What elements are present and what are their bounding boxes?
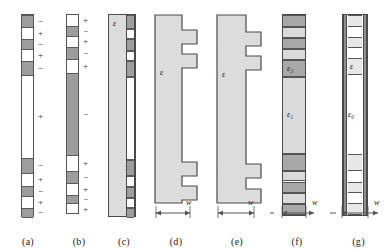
segment-dark xyxy=(22,186,33,197)
polarity-sign: − xyxy=(38,186,43,195)
caption-f: (f) xyxy=(268,236,326,247)
polarity-sign: + xyxy=(38,175,43,184)
poled-bar-b xyxy=(66,14,79,214)
segment-dark xyxy=(67,73,78,156)
panel-e: ε w (e) xyxy=(206,0,268,250)
comb-shape-e xyxy=(216,14,262,204)
grating-segment xyxy=(127,77,134,159)
right-rail-g xyxy=(363,15,367,215)
epsilon1-label-f: ε₁ xyxy=(287,110,293,119)
comb-svg-d xyxy=(154,14,198,204)
polarity-sign: + xyxy=(83,158,88,167)
figure-canvas: −+−+−+−+−+− (a) +−+−+−+−+−+ (b) ε (c) ε xyxy=(0,0,391,250)
caption-g: (g) xyxy=(326,236,391,247)
epsilon-label-c: ε xyxy=(113,19,116,28)
epsilon-label-g: ε xyxy=(350,62,353,71)
grating-segment xyxy=(127,187,134,198)
polarity-sign: + xyxy=(38,112,43,121)
stack-band xyxy=(283,49,305,60)
dimension-w-e xyxy=(216,206,266,218)
segment-dark xyxy=(22,39,33,50)
grating-segment xyxy=(127,198,134,208)
stack-band xyxy=(283,171,305,182)
polarity-sign: − xyxy=(83,26,88,35)
w-label-g: w xyxy=(374,198,379,207)
grating-segment xyxy=(127,39,134,51)
stack-band xyxy=(283,15,305,27)
stack-band xyxy=(348,182,362,194)
polarity-sign: + xyxy=(83,184,88,193)
grating-segment xyxy=(127,51,134,61)
epsilon0-label-g: ε₀ xyxy=(348,110,354,119)
stack-band xyxy=(283,193,305,204)
polarity-sign: + xyxy=(38,50,43,59)
w-label-f: w xyxy=(312,198,317,207)
caption-b: (b) xyxy=(56,236,102,247)
dimension-w-f xyxy=(270,206,324,218)
epsilon-label-d: ε xyxy=(160,68,163,77)
polarity-sign: − xyxy=(83,109,88,118)
caption-e: (e) xyxy=(206,236,268,247)
panel-b: +−+−+−+−+−+ (b) xyxy=(56,0,102,250)
polarity-sign: − xyxy=(38,161,43,170)
caption-a: (a) xyxy=(0,236,56,247)
segment-dark xyxy=(67,26,78,37)
panel-f: ε₂ ε₁ w (f) xyxy=(268,0,326,250)
polarity-sign: − xyxy=(83,48,88,57)
segment-dark xyxy=(22,208,33,218)
w-label-e: w xyxy=(248,198,253,207)
polarity-sign: − xyxy=(38,63,43,72)
dimension-arrow-f xyxy=(270,206,324,218)
layered-stack-g xyxy=(342,14,368,216)
polarity-sign: − xyxy=(83,194,88,203)
polarity-sign: + xyxy=(38,197,43,206)
segment-dark xyxy=(67,171,78,184)
w-label-d: w xyxy=(186,198,191,207)
stack-band xyxy=(348,154,362,171)
poled-bar-a xyxy=(21,14,34,217)
epsilon-label-e: ε xyxy=(222,70,225,79)
segment-dark xyxy=(67,195,78,204)
polarity-sign: − xyxy=(38,16,43,25)
panel-g: ε ε₀ w (g) xyxy=(326,0,391,250)
left-rail-g xyxy=(343,15,347,215)
panel-c: ε (c) xyxy=(102,0,146,250)
polarity-sign: + xyxy=(38,28,43,37)
dimension-arrow-e xyxy=(216,206,266,218)
stack-band xyxy=(283,182,305,193)
polarity-sign: − xyxy=(38,39,43,48)
grating-segment xyxy=(127,176,134,187)
dimension-arrow-g xyxy=(330,206,388,218)
comb-shape-d xyxy=(154,14,198,204)
stack-band xyxy=(348,171,362,182)
polarity-sign: + xyxy=(83,204,88,213)
segment-dark xyxy=(22,15,33,28)
polarity-sign: + xyxy=(83,61,88,70)
dimension-w-d xyxy=(154,206,200,218)
grating-segment xyxy=(127,29,134,39)
grating-segment xyxy=(127,15,134,29)
panel-a: −+−+−+−+−+− (a) xyxy=(0,0,56,250)
polarity-sign: − xyxy=(83,172,88,181)
dimension-arrow-d xyxy=(154,206,200,218)
caption-d: (d) xyxy=(146,236,206,247)
polarity-sign: + xyxy=(83,15,88,24)
edge-grating-c xyxy=(126,14,135,217)
stack-band xyxy=(348,15,362,27)
stack-band xyxy=(348,37,362,49)
caption-c: (c) xyxy=(102,236,146,247)
stack-band xyxy=(283,27,305,38)
grating-segment xyxy=(127,61,134,77)
segment-dark xyxy=(67,47,78,60)
comb-svg-e xyxy=(216,14,262,204)
stack-band xyxy=(348,27,362,37)
segment-dark xyxy=(22,61,33,76)
stack-band xyxy=(348,48,362,58)
epsilon2-label-f: ε₂ xyxy=(287,64,293,73)
grating-segment xyxy=(127,208,134,218)
segment-dark xyxy=(22,158,33,174)
panel-d: ε w (d) xyxy=(146,0,206,250)
polarity-sign: + xyxy=(83,37,88,46)
stack-band xyxy=(348,193,362,203)
grating-segment xyxy=(127,160,134,176)
